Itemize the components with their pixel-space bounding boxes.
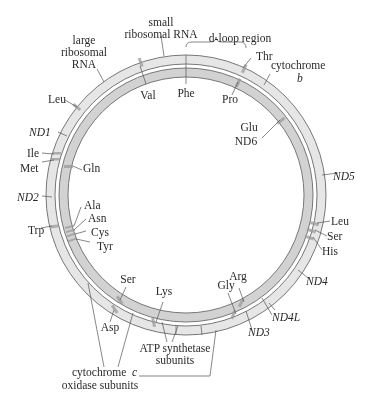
- label-gln: Gln: [83, 162, 101, 174]
- label-cys: Cys: [91, 226, 109, 239]
- label-phe: Phe: [177, 87, 194, 99]
- label-asn: Asn: [88, 212, 107, 224]
- label-val: Val: [140, 89, 155, 101]
- label-tyr: Tyr: [97, 240, 113, 253]
- label-his: His: [322, 245, 339, 257]
- label-cytochrome-b-letter: b: [297, 72, 303, 84]
- label-ser-bottom: Ser: [120, 273, 136, 285]
- label-gly: Gly: [217, 279, 235, 292]
- label-met: Met: [20, 162, 39, 174]
- label-cytochrome-b: cytochrome: [271, 59, 325, 72]
- label-cox-subunits: oxidase subunits: [62, 379, 139, 391]
- label-nd4l: ND4L: [271, 311, 300, 323]
- label-trp: Trp: [28, 224, 44, 237]
- mitochondrial-genome-diagram: small ribosomal RNA large ribosomal RNA …: [0, 0, 368, 403]
- label-nd1: ND1: [28, 126, 51, 138]
- label-small-rrna-2: ribosomal RNA: [124, 28, 198, 40]
- label-leu-top: Leu: [48, 93, 66, 105]
- label-large-rrna-3: RNA: [72, 58, 97, 70]
- label-nd3: ND3: [247, 326, 270, 338]
- label-cox-c: c: [132, 366, 137, 378]
- label-nd5: ND5: [332, 170, 355, 182]
- label-glu: Glu: [240, 121, 258, 133]
- label-dloop: d-loop region: [209, 32, 272, 45]
- label-lys: Lys: [156, 285, 173, 298]
- label-asp: Asp: [101, 321, 120, 334]
- label-pro: Pro: [222, 93, 238, 105]
- label-small-rrna: small: [149, 16, 174, 28]
- label-ala: Ala: [84, 199, 101, 211]
- label-nd4: ND4: [305, 275, 328, 287]
- label-large-rrna-2: ribosomal: [61, 46, 107, 58]
- label-ile: Ile: [27, 147, 39, 159]
- label-nd6: ND6: [235, 135, 258, 147]
- inner-strand-ring: [64, 73, 309, 318]
- label-leu-right: Leu: [331, 215, 349, 227]
- label-ser-right: Ser: [327, 230, 343, 242]
- outer-strand-ring: [51, 60, 322, 331]
- label-cox: cytochrome: [72, 366, 126, 379]
- label-nd2: ND2: [16, 191, 39, 203]
- label-atp-subunits: subunits: [156, 354, 195, 366]
